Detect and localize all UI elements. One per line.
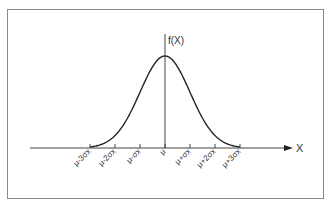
- x-axis-label: X: [296, 142, 304, 154]
- x-axis-tick-label: μ-σx: [125, 147, 143, 165]
- normal-distribution-diagram: X f(X) μ-3σxμ-2σxμ-σxμμ+σxμ+2σxμ+3σx: [0, 0, 330, 202]
- x-axis-tick-label: μ-3σx: [71, 147, 92, 168]
- x-axis-tick-label: μ+3σx: [220, 147, 242, 169]
- x-axis-ticks: [90, 144, 240, 148]
- x-axis-tick-label: μ+2σx: [195, 147, 217, 169]
- x-axis-tick-label: μ-2σx: [96, 147, 117, 168]
- x-axis-tick-labels: μ-3σxμ-2σxμ-σxμμ+σxμ+2σxμ+3σx: [71, 147, 242, 170]
- x-axis-arrow-icon: [284, 145, 293, 151]
- y-axis-label: f(X): [168, 35, 184, 46]
- x-axis-tick-label: μ+σx: [173, 147, 192, 166]
